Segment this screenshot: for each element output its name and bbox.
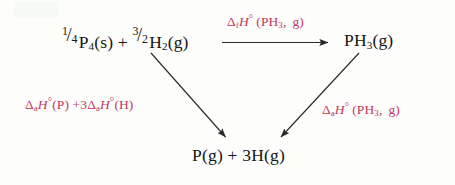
atomic-p-state: (g) (202, 145, 223, 165)
enthalpy-symbol: H (335, 102, 345, 117)
atomization-enthalpy-left-label: ΔaH°(P) +3ΔaH°(H) (25, 95, 133, 113)
delta-glyph: Δ (322, 102, 331, 117)
delta-glyph: Δ (87, 97, 96, 112)
atomic-h-state: (g) (264, 145, 285, 165)
label-species-h: (H) (114, 97, 133, 112)
standard-state-degree: ° (345, 100, 350, 112)
phosphine-symbol: PH (344, 30, 367, 50)
fraction-denominator: 2 (142, 32, 148, 47)
delta-glyph: Δ (227, 14, 236, 29)
fraction-three-halves: 3/2 (133, 30, 148, 48)
delta-glyph: Δ (25, 97, 34, 112)
label-comma: , (379, 102, 382, 117)
enthalpy-symbol: H (239, 14, 249, 29)
close-paren: ) (299, 14, 304, 29)
atomic-h-coefficient: 3 (242, 145, 251, 165)
fraction-denominator: 4 (72, 32, 78, 47)
thermochemical-cycle-diagram: 1/4 P4(s) + 3/2 H2(g) PH3(g) P(g) + 3H(g… (0, 0, 455, 185)
atoms-plus-sign: + (228, 145, 238, 165)
label-comma: , (283, 14, 286, 29)
arrow-atomization-left-diagonal (151, 53, 226, 137)
phosphine-gas-node: PH3(g) (344, 30, 393, 51)
enthalpy-symbol: H (38, 97, 48, 112)
reactant-h2-symbol: H (149, 32, 162, 52)
reactant-p4-symbol: P (79, 32, 89, 52)
phosphine-state: (g) (372, 30, 393, 50)
formation-enthalpy-label: ΔfH°(PH3,g) (227, 12, 304, 30)
close-paren: ) (395, 102, 400, 117)
atomic-h-symbol: H (251, 145, 264, 165)
reactant-h2-state: (g) (168, 32, 189, 52)
label-species-p: (P) (52, 97, 69, 112)
arrow-atomization-right-diagonal (281, 53, 359, 137)
atomic-p-symbol: P (192, 145, 202, 165)
fraction-one-quarter: 1/4 (62, 30, 77, 48)
reactants-plus-sign: + (118, 32, 128, 52)
label-species-symbol: PH (261, 14, 278, 29)
atomization-enthalpy-right-label: ΔaH°(PH3,g) (322, 100, 400, 118)
standard-state-degree: ° (249, 12, 254, 24)
reactants-expression: 1/4 P4(s) + 3/2 H2(g) (62, 30, 189, 53)
atoms-expression: P(g) + 3H(g) (192, 145, 285, 166)
reactant-p4-state: (s) (94, 32, 113, 52)
enthalpy-symbol: H (100, 97, 110, 112)
label-species-symbol: PH (357, 102, 374, 117)
